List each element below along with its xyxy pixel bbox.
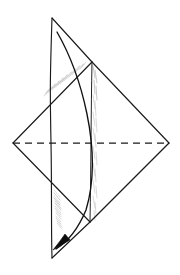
origami-figure-svg: Origami fold step diagram Line drawing o… [0, 0, 180, 275]
origami-diagram: Origami fold step diagram Line drawing o… [0, 0, 180, 275]
diagram-background [0, 0, 180, 275]
